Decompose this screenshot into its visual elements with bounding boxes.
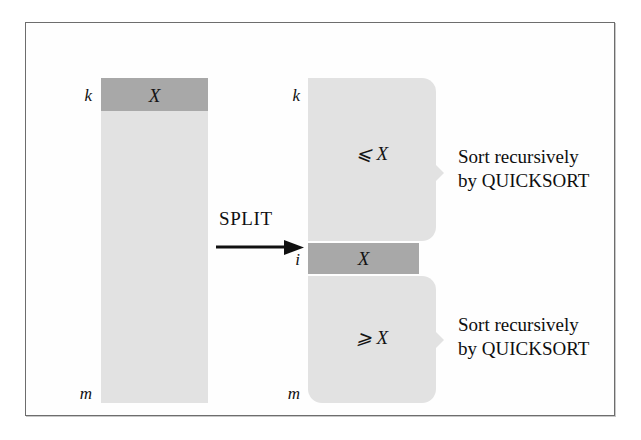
input-array-column xyxy=(101,78,208,403)
output-pivot-band: X xyxy=(308,243,419,274)
upper-annotation-line-1: Sort recursively xyxy=(458,145,589,169)
input-bottom-index-label: m xyxy=(62,385,92,402)
input-pivot-band: X xyxy=(101,78,208,111)
lower-annotation: Sort recursively by QUICKSORT xyxy=(458,313,589,362)
lower-partition-label: ⩾ X xyxy=(308,328,436,347)
output-pivot-index-label: i xyxy=(278,251,300,268)
lower-annotation-line-1: Sort recursively xyxy=(458,313,589,337)
output-bottom-index-label: m xyxy=(270,385,300,402)
split-operation-group: SPLIT xyxy=(216,209,316,269)
figure-frame: X k m SPLIT ⩽ X X ⩾ X k i m Sort recursi… xyxy=(25,22,615,416)
lower-partition-pointer-icon xyxy=(435,331,444,349)
upper-partition-pointer-icon xyxy=(435,164,444,182)
upper-annotation-line-2: by QUICKSORT xyxy=(458,169,589,193)
lower-annotation-line-2: by QUICKSORT xyxy=(458,337,589,361)
split-operation-label: SPLIT xyxy=(219,209,273,228)
lower-partition-panel: ⩾ X xyxy=(308,276,436,403)
upper-partition-label: ⩽ X xyxy=(308,144,436,163)
output-pivot-label: X xyxy=(308,249,419,268)
upper-partition-panel: ⩽ X xyxy=(308,78,436,241)
output-top-index-label: k xyxy=(274,87,300,104)
upper-annotation: Sort recursively by QUICKSORT xyxy=(458,145,589,194)
input-top-index-label: k xyxy=(66,87,92,104)
input-pivot-label: X xyxy=(101,86,208,105)
